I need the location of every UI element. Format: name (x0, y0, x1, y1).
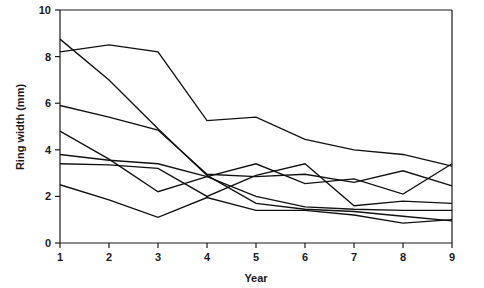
data-series-line (60, 164, 452, 206)
data-series-line (60, 39, 452, 221)
y-tick-label: 6 (45, 97, 51, 109)
chart-figure: 0246810123456789 Year Ring width (mm) (0, 0, 484, 288)
x-tick-label: 6 (302, 251, 308, 263)
x-tick-label: 9 (449, 251, 455, 263)
line-chart-plot: 0246810123456789 Year Ring width (mm) (0, 0, 484, 288)
y-tick-label: 10 (39, 4, 51, 16)
y-axis-title: Ring width (mm) (14, 84, 26, 170)
data-series-line (60, 45, 452, 166)
x-tick-label: 1 (57, 251, 63, 263)
data-series-line (60, 131, 452, 194)
tick-labels-group: 0246810123456789 (39, 4, 455, 263)
y-tick-label: 4 (45, 144, 52, 156)
x-tick-label: 3 (155, 251, 161, 263)
x-tick-label: 2 (106, 251, 112, 263)
x-tick-label: 8 (400, 251, 406, 263)
x-tick-label: 7 (351, 251, 357, 263)
x-tick-label: 4 (204, 251, 211, 263)
y-tick-label: 8 (45, 51, 51, 63)
x-tick-label: 5 (253, 251, 259, 263)
y-tick-label: 0 (45, 237, 51, 249)
x-axis-title: Year (244, 272, 268, 284)
axes-group (60, 10, 452, 243)
y-tick-label: 2 (45, 190, 51, 202)
data-series-group (60, 39, 452, 223)
